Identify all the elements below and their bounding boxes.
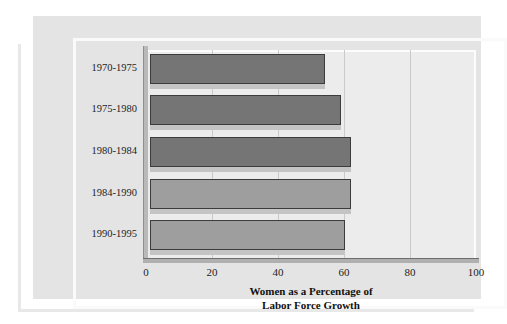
x-tick-80: 80 (405, 266, 416, 278)
category-label-1980-1984: 1980-1984 (92, 145, 138, 156)
bar-fill (150, 137, 351, 167)
x-tick-20: 20 (207, 266, 218, 278)
x-axis-spine (143, 258, 479, 263)
category-label-1984-1990: 1984-1990 (92, 187, 138, 198)
bar-1975-1980 (146, 95, 345, 127)
chart-panel: 1970-19751975-19801980-19841984-19901990… (33, 16, 481, 299)
bar-fill (150, 179, 351, 209)
x-tick-100: 100 (468, 266, 485, 278)
x-axis-title: Women as a Percentage of Labor Force Gro… (146, 284, 476, 312)
x-tick-0: 0 (143, 266, 149, 278)
category-label-1970-1975: 1970-1975 (92, 62, 138, 73)
bar-1980-1984 (146, 137, 355, 169)
x-tick-60: 60 (339, 266, 350, 278)
bar-1990-1995 (146, 220, 349, 252)
bar-fill (150, 95, 341, 125)
bar-fill (150, 220, 345, 250)
bar-1970-1975 (146, 54, 329, 86)
x-axis-title-line-2: Labor Force Growth (146, 298, 476, 312)
bar-fill (150, 54, 325, 84)
category-label-1990-1995: 1990-1995 (92, 228, 138, 239)
category-label-1975-1980: 1975-1980 (92, 103, 138, 114)
bar-1984-1990 (146, 179, 355, 211)
y-axis-spine (143, 46, 148, 262)
plot-area (146, 50, 476, 258)
x-axis-title-line-1: Women as a Percentage of (146, 284, 476, 298)
x-tick-40: 40 (273, 266, 284, 278)
category-axis-labels: 1970-19751975-19801980-19841984-19901990… (33, 50, 137, 258)
bar-series (146, 50, 476, 258)
